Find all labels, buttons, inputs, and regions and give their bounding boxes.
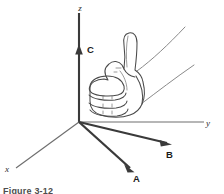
x-axis-label: x: [4, 164, 9, 174]
vector-c-label: C: [87, 44, 94, 55]
hand-outline: [90, 33, 144, 117]
vector-a-arrowhead: [124, 164, 135, 173]
vector-b-arrowhead: [160, 140, 173, 147]
vector-a-label: A: [133, 173, 140, 184]
z-axis-label: z: [77, 3, 82, 13]
y-axis-label: y: [205, 118, 210, 128]
forearm-lower-line: [141, 65, 194, 104]
right-hand-rule-diagram: z y x C B A: [0, 0, 224, 194]
figure-container: z y x C B A Figure 3-12: [0, 0, 224, 194]
figure-caption: Figure 3-12: [3, 185, 53, 194]
vector-c-arrowhead: [75, 44, 83, 55]
vector-b-label: B: [166, 149, 173, 160]
x-axis-line: [16, 122, 79, 168]
right-hand-illustration: [89, 27, 194, 117]
forearm-upper-line: [137, 27, 185, 71]
